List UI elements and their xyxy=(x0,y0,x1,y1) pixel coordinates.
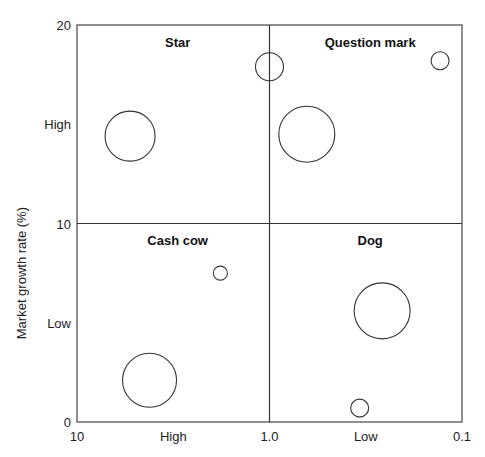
bubble-point xyxy=(351,399,369,417)
bubble-point xyxy=(354,283,410,339)
bubble-point xyxy=(213,266,227,280)
x-tick-label: 10 xyxy=(70,429,84,444)
x-tick-label: High xyxy=(160,429,187,444)
quadrant-label-cash-cow: Cash cow xyxy=(147,233,209,248)
bubble-point xyxy=(431,52,449,70)
y-tick-label: 10 xyxy=(57,217,71,232)
quadrant-label-dog: Dog xyxy=(358,233,383,248)
y-tick-label: High xyxy=(44,117,71,132)
x-tick-label: 1.0 xyxy=(260,429,278,444)
x-tick-label: Low xyxy=(354,429,378,444)
y-tick-label: 20 xyxy=(57,18,71,33)
y-tick-label: Low xyxy=(47,316,71,331)
bubble-point xyxy=(105,111,155,161)
bubble-point xyxy=(123,353,177,407)
quadrant-labels: StarQuestion markCash cowDog xyxy=(147,35,416,249)
y-tick-label: 0 xyxy=(64,415,71,430)
y-axis-ticks: 20High10Low0 xyxy=(44,18,71,430)
bcg-matrix-chart: StarQuestion markCash cowDog 10High1.0Lo… xyxy=(0,0,485,457)
quadrant-label-star: Star xyxy=(165,35,190,50)
x-tick-label: 0.1 xyxy=(453,429,471,444)
quadrant-dividers xyxy=(77,25,462,422)
x-axis-ticks: 10High1.0Low0.1 xyxy=(70,429,471,444)
bubble-point xyxy=(279,106,335,162)
quadrant-label-question-mark: Question mark xyxy=(325,35,417,50)
y-axis-label: Market growth rate (%) xyxy=(14,207,29,339)
